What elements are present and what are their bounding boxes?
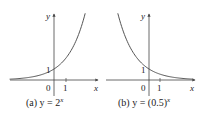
- y-tick-label: 1: [141, 65, 146, 75]
- x-axis-label: x: [189, 83, 194, 93]
- y-tick-label: 1: [46, 65, 51, 75]
- caption-a: (a) y = 2x: [26, 96, 63, 108]
- x-tick-label: 1: [157, 83, 162, 93]
- origin-label: 0: [141, 83, 146, 93]
- curve-b: [118, 13, 194, 79]
- x-axis-label: x: [93, 83, 98, 93]
- caption-b: (b) y = (0.5)x: [118, 96, 170, 108]
- y-axis-label: y: [45, 11, 50, 21]
- plot-b: y x 1 0 1: [106, 11, 195, 96]
- plot-a: y x 1 0 1: [10, 11, 98, 96]
- x-tick-label: 1: [63, 83, 68, 93]
- figure: y x 1 0 1 y x 1 0 1 (a) y = 2x (b) y = (…: [0, 0, 202, 124]
- origin-label: 0: [46, 83, 51, 93]
- y-axis-label: y: [140, 11, 145, 21]
